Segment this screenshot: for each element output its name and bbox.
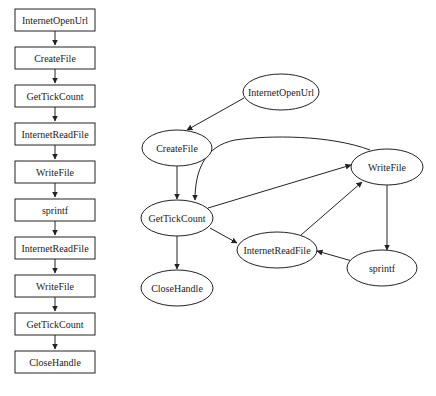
graph-node-writefile: WriteFile — [351, 149, 423, 185]
sequence-node: WriteFile — [15, 275, 95, 297]
svg-text:InternetOpenUrl: InternetOpenUrl — [248, 87, 314, 98]
sequence-node-label: InternetReadFile — [21, 243, 89, 254]
sequence-node-label: WriteFile — [36, 281, 74, 292]
sequence-node: CloseHandle — [15, 351, 95, 373]
svg-text:CreateFile: CreateFile — [156, 143, 198, 154]
sequence-node-label: CreateFile — [34, 53, 76, 64]
graph-node-gettickcount: GetTickCount — [141, 200, 213, 236]
sequence-node: CreateFile — [15, 47, 95, 69]
svg-text:InternetReadFile: InternetReadFile — [243, 245, 311, 256]
sequence-node-label: GetTickCount — [27, 319, 84, 330]
sequence-node: sprintf — [15, 199, 95, 221]
graph-node-closehandle: CloseHandle — [141, 270, 213, 306]
sequence-node: WriteFile — [15, 161, 95, 183]
api-call-diagram: InternetOpenUrl CreateFile GetTickCount … — [0, 0, 436, 396]
sequence-node-label: sprintf — [42, 205, 69, 216]
sequence-node-label: CloseHandle — [29, 357, 81, 368]
sequence-node: InternetReadFile — [15, 123, 95, 145]
svg-text:WriteFile: WriteFile — [368, 162, 406, 173]
graph-node-internetopenurl: InternetOpenUrl — [243, 74, 319, 110]
sequence-node: GetTickCount — [15, 313, 95, 335]
sequence-node: GetTickCount — [15, 85, 95, 107]
sequence-node: InternetOpenUrl — [15, 9, 95, 31]
sequence-node-label: InternetOpenUrl — [22, 15, 88, 26]
graph-node-createfile: CreateFile — [142, 130, 212, 166]
svg-text:GetTickCount: GetTickCount — [149, 213, 206, 224]
sequence-node-label: WriteFile — [36, 167, 74, 178]
svg-text:sprintf: sprintf — [369, 263, 396, 274]
graph-node-internetreadfile: InternetReadFile — [237, 232, 317, 268]
sequence-node-label: GetTickCount — [27, 91, 84, 102]
graph-node-sprintf: sprintf — [347, 250, 417, 286]
sequence-node-label: InternetReadFile — [21, 129, 89, 140]
svg-text:CloseHandle: CloseHandle — [151, 283, 203, 294]
sequence-node: InternetReadFile — [15, 237, 95, 259]
